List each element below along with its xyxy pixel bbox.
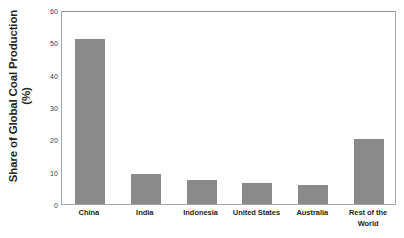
y-axis-title: Share of Global Coal Production (%) <box>0 0 40 194</box>
bar-slot <box>341 12 397 204</box>
y-axis-tick-label: 30 <box>40 105 58 112</box>
y-axis-tick-label: 10 <box>40 169 58 176</box>
bar-chart-figure: Share of Global Coal Production (%) 0102… <box>0 0 404 238</box>
y-axis-tick-label: 20 <box>40 137 58 144</box>
bar-australia[interactable] <box>298 185 328 204</box>
bar-united-states[interactable] <box>242 183 272 204</box>
bar-slot <box>62 12 118 204</box>
bars-layer <box>62 12 395 204</box>
plot-area <box>61 11 396 205</box>
x-axis-label-line: World <box>335 219 401 230</box>
y-axis-tick-label: 60 <box>40 8 58 15</box>
bar-rest-of-the-world[interactable] <box>354 139 384 204</box>
y-axis-tick-label: 50 <box>40 40 58 47</box>
bar-china[interactable] <box>75 39 105 204</box>
x-axis-category-labels: ChinaIndiaIndonesiaUnited StatesAustrali… <box>61 208 396 238</box>
y-axis-title-line-2: (%) <box>20 87 33 104</box>
bar-indonesia[interactable] <box>187 180 217 204</box>
y-axis-tick-labels: 0102030405060 <box>40 0 58 238</box>
bar-slot <box>118 12 174 204</box>
y-axis-tick-label: 40 <box>40 72 58 79</box>
x-axis-label-line: Rest of the <box>335 208 401 219</box>
bar-india[interactable] <box>131 174 161 204</box>
bar-slot <box>285 12 341 204</box>
x-axis-label-rest-of-the-world: Rest of theWorld <box>335 208 401 230</box>
bar-slot <box>230 12 286 204</box>
y-axis-title-line-1: Share of Global Coal Production <box>7 10 20 182</box>
bar-slot <box>174 12 230 204</box>
